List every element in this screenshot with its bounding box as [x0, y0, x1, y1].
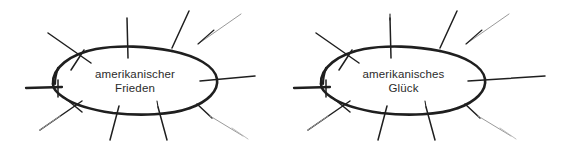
cluster-2-label-line-1: amerikanisches: [320, 67, 487, 81]
spoke-5: [198, 14, 241, 44]
cluster-1-label-line-2: Frieden: [52, 81, 218, 95]
cluster-1-label-line-1: amerikanischer: [52, 67, 218, 81]
cluster-2-label: amerikanisches Glück: [320, 67, 487, 95]
spoke-5: [466, 14, 509, 44]
spoke-9: [378, 106, 387, 140]
spoke-4: [440, 11, 457, 48]
spoke-10: [426, 107, 435, 140]
cluster-1-label: amerikanischer Frieden: [52, 67, 218, 95]
spoke-3: [127, 18, 128, 58]
spoke-9: [110, 106, 119, 140]
spoke-3: [390, 18, 391, 58]
cluster-2-label-line-2: Glück: [320, 81, 487, 95]
spoke-4: [172, 11, 189, 48]
spoke-10: [158, 107, 167, 140]
diagram-canvas: .ink { fill: none; stroke: #1f1f1f; stro…: [0, 0, 564, 156]
